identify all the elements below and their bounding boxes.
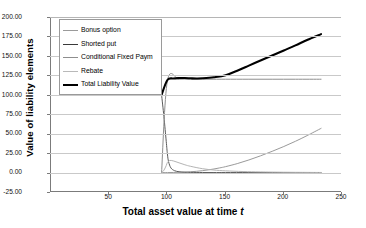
gridline	[50, 153, 341, 154]
gridline	[50, 17, 341, 18]
x-axis-title-text: Total asset value at time	[123, 206, 241, 217]
x-tick-mark	[166, 192, 167, 195]
y-tick-mark	[47, 75, 50, 76]
chart-legend: Bonus optionShorted putConditional Fixed…	[59, 19, 162, 95]
legend-label: Total Liability Value	[81, 81, 139, 88]
y-tick-label: 150.00	[0, 53, 22, 60]
legend-item[interactable]: Rebate	[63, 65, 161, 79]
x-tick-mark	[225, 192, 226, 195]
legend-swatch-icon	[63, 84, 78, 86]
gridline	[50, 95, 341, 96]
y-tick-label: 200.00	[0, 14, 22, 21]
legend-item[interactable]: Total Liability Value	[63, 78, 161, 92]
y-tick-label: 50.00	[0, 130, 22, 137]
legend-swatch-icon	[63, 30, 78, 31]
y-tick-mark	[47, 56, 50, 57]
legend-swatch-icon	[63, 44, 78, 45]
y-tick-mark	[47, 153, 50, 154]
chart-figure: Value of liability elements -25.000.0025…	[0, 0, 366, 228]
legend-label: Conditional Fixed Paym	[81, 54, 153, 61]
legend-label: Rebate	[81, 68, 103, 75]
x-tick-mark	[341, 192, 342, 195]
x-tick-mark	[283, 192, 284, 195]
y-tick-mark	[47, 134, 50, 135]
gridline	[50, 173, 341, 174]
legend-swatch-icon	[63, 71, 78, 72]
series-line	[162, 73, 321, 172]
legend-swatch-icon	[63, 57, 78, 58]
gridline	[50, 114, 341, 115]
y-tick-mark	[47, 95, 50, 96]
legend-item[interactable]: Shorted put	[63, 38, 161, 52]
y-tick-mark	[47, 36, 50, 37]
y-tick-mark	[47, 17, 50, 18]
y-tick-mark	[47, 173, 50, 174]
legend-label: Shorted put	[81, 41, 116, 48]
x-tick-mark	[108, 192, 109, 195]
y-tick-label: 0.00	[0, 169, 22, 176]
legend-item[interactable]: Conditional Fixed Paym	[63, 51, 161, 65]
y-tick-label: 25.00	[0, 150, 22, 157]
y-tick-label: 100.00	[0, 92, 22, 99]
y-tick-mark	[47, 192, 50, 193]
gridline	[50, 134, 341, 135]
x-axis-title: Total asset value at time t	[0, 206, 366, 217]
legend-label: Bonus option	[81, 27, 121, 34]
y-tick-label: 125.00	[0, 72, 22, 79]
y-axis-title: Value of liability elements	[24, 18, 35, 178]
legend-item[interactable]: Bonus option	[63, 24, 161, 38]
y-tick-mark	[47, 114, 50, 115]
y-tick-label: -25.00	[0, 189, 22, 196]
series-line	[162, 34, 321, 95]
series-line	[162, 128, 321, 172]
y-tick-label: 75.00	[0, 111, 22, 118]
x-axis-title-variable: t	[240, 206, 243, 217]
y-tick-label: 175.00	[0, 33, 22, 40]
